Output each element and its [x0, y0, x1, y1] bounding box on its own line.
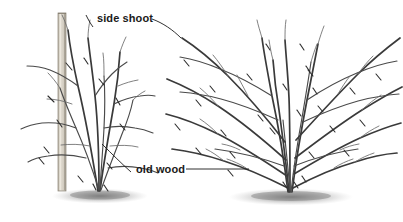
right-plant-main-canes	[262, 38, 318, 192]
label-side-shoot: side shoot	[86, 12, 181, 38]
left-plant-side-shoots	[21, 15, 158, 173]
left-plant-pruning-marks	[39, 58, 125, 191]
side-shoot-label-text: side shoot	[97, 12, 153, 24]
right-plant-right-branches	[293, 38, 402, 188]
old-wood-label-text: old wood	[136, 163, 185, 175]
diagram-canvas: side shoot old wood	[0, 0, 403, 222]
side-shoot-leader-right	[152, 19, 181, 38]
pruning-diagram-figure: side shoot old wood	[0, 0, 403, 222]
right-plant	[166, 20, 402, 192]
right-plant-pruning-marks	[175, 44, 381, 188]
